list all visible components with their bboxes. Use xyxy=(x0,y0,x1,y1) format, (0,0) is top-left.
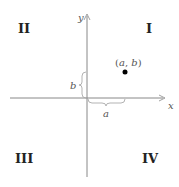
quadrant-2-label: II xyxy=(18,21,30,36)
point-a-b xyxy=(123,70,128,75)
quadrant-3-label: III xyxy=(15,151,33,166)
vertical-brace xyxy=(79,72,86,98)
horizontal-brace-label: a xyxy=(103,108,109,119)
vertical-brace-label: b xyxy=(70,80,76,91)
point-label: (a, b) xyxy=(115,57,142,68)
horizontal-brace xyxy=(88,99,125,106)
quadrant-4-label: IV xyxy=(142,151,159,166)
quadrant-1-label: I xyxy=(146,21,152,36)
y-axis-label: y xyxy=(77,12,84,23)
coordinate-plane: x y II I III IV (a, b) b a xyxy=(0,0,179,187)
x-axis-label: x xyxy=(168,100,174,111)
